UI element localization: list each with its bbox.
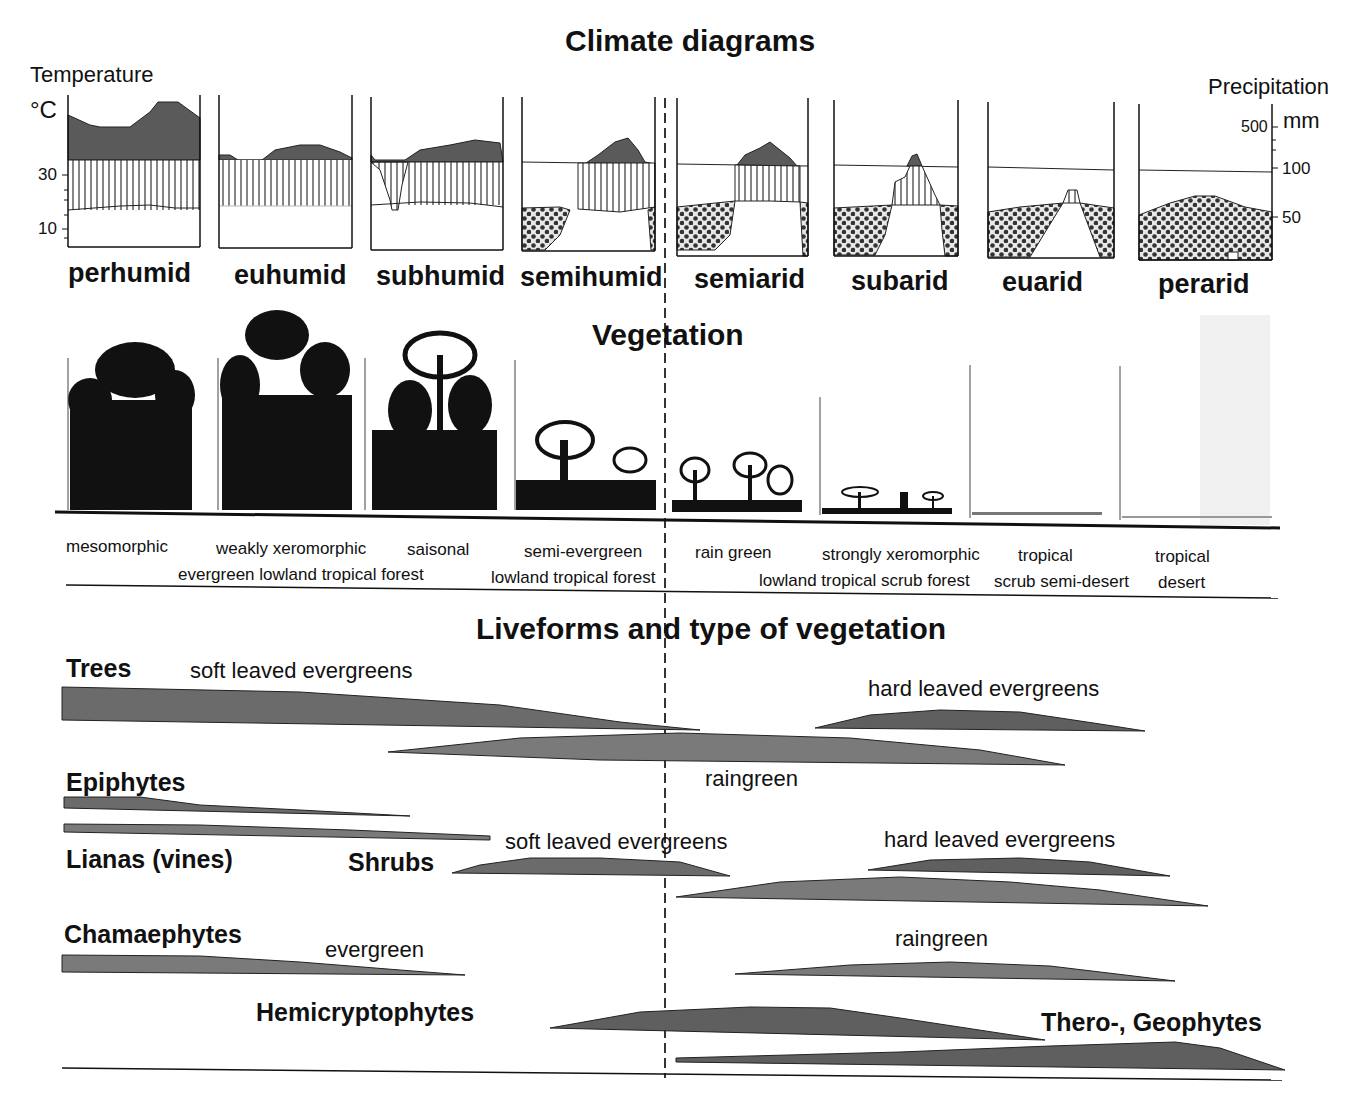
liveform-trees: Trees (66, 654, 131, 683)
climate-chart-euarid (988, 102, 1114, 258)
climate-chart-perhumid (62, 95, 200, 247)
temperature-axis-label: Temperature (30, 62, 154, 88)
chamaephytes-raingreen-label: raingreen (895, 926, 988, 952)
temperature-tick-10: 10 (38, 219, 57, 239)
precipitation-tick-50: 50 (1282, 208, 1301, 228)
climate-chart-subhumid (371, 97, 503, 250)
liveform-epiphytes: Epiphytes (66, 768, 185, 797)
temperature-tick-30: 30 (38, 165, 57, 185)
precipitation-tick-100: 100 (1282, 159, 1310, 179)
veg-label-weakly-xeromorphic: weakly xeromorphic (216, 538, 366, 560)
climate-chart-euhumid (219, 95, 352, 248)
liveforms-title: Liveforms and type of vegetation (476, 612, 946, 646)
veg-label-saisonal: saisonal (407, 539, 469, 561)
liveform-thero-geophytes: Thero-, Geophytes (1041, 1008, 1262, 1037)
climate-diagrams-title: Climate diagrams (565, 24, 815, 58)
precipitation-unit: mm (1283, 108, 1320, 134)
veg-label-strongly-xeromorphic: strongly xeromorphic (822, 544, 980, 566)
liveform-shrubs: Shrubs (348, 848, 434, 877)
liveform-lianas: Lianas (vines) (66, 845, 233, 874)
precipitation-tick-500: 500 (1241, 118, 1268, 136)
climate-label-perarid: perarid (1158, 269, 1250, 300)
vegetation-title: Vegetation (592, 318, 744, 352)
trees-raingreen-label: raingreen (705, 766, 798, 792)
climate-label-euhumid: euhumid (234, 260, 347, 291)
climate-diagrams (62, 95, 1278, 260)
veg-label-scrub-forest: lowland tropical scrub forest (759, 570, 970, 592)
liveform-hemicryptophytes: Hemicryptophytes (256, 998, 474, 1027)
veg-label-scrub-semi-desert: scrub semi-desert (994, 571, 1129, 593)
temperature-unit: °C (30, 96, 57, 124)
climate-chart-semiarid (677, 98, 808, 256)
climate-label-perhumid: perhumid (68, 258, 191, 289)
climate-label-subhumid: subhumid (376, 261, 505, 292)
chamaephytes-evergreen-label: evergreen (325, 937, 424, 963)
veg-label-semi-evergreen-forest: lowland tropical forest (491, 567, 655, 589)
climate-chart-subarid (834, 100, 958, 256)
veg-label-tropical-1: tropical (1018, 545, 1073, 567)
climate-label-semihumid: semihumid (520, 262, 663, 293)
precipitation-axis-label: Precipitation (1208, 74, 1329, 100)
climate-label-subarid: subarid (851, 266, 949, 297)
shrubs-hard-leaved-label: hard leaved evergreens (884, 827, 1115, 853)
veg-label-rain-green: rain green (695, 542, 772, 564)
veg-label-desert: desert (1158, 572, 1205, 594)
trees-hard-leaved-label: hard leaved evergreens (868, 676, 1099, 702)
veg-label-tropical-2: tropical (1155, 546, 1210, 568)
liveform-chamaephytes: Chamaephytes (64, 920, 242, 949)
climate-chart-semihumid (522, 97, 655, 251)
climate-label-semiarid: semiarid (694, 264, 805, 295)
veg-label-semi-evergreen: semi-evergreen (524, 541, 642, 563)
climate-label-euarid: euarid (1002, 267, 1083, 298)
veg-label-evergreen-lowland: evergreen lowland tropical forest (178, 564, 424, 586)
veg-label-mesomorphic: mesomorphic (66, 536, 168, 558)
shrubs-soft-leaved-label: soft leaved evergreens (505, 829, 728, 855)
trees-soft-leaved-label: soft leaved evergreens (190, 658, 413, 684)
